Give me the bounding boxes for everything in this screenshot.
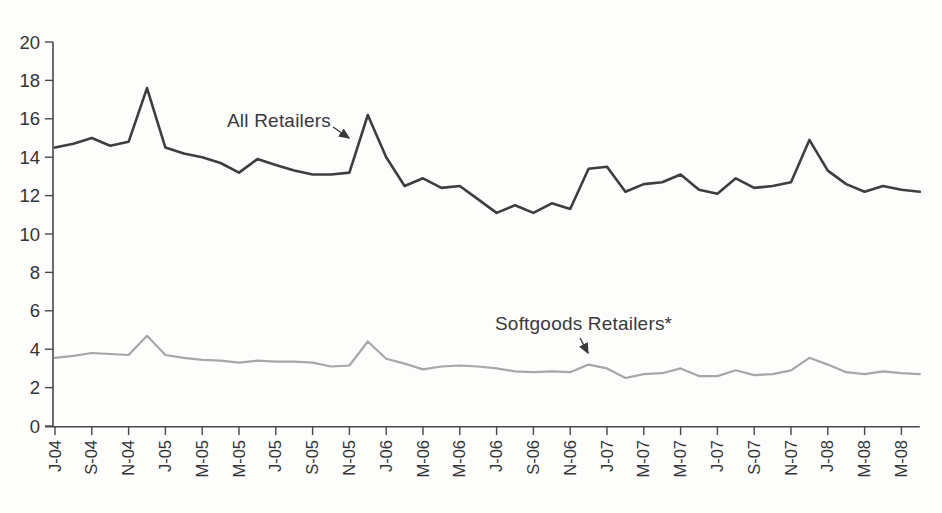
x-tick-label: M-06 bbox=[414, 440, 432, 478]
all-retailers-arrow bbox=[333, 127, 349, 138]
x-tick-label: M-07 bbox=[634, 440, 652, 478]
y-tick-label: 4 bbox=[30, 339, 40, 360]
x-tick-label: S-04 bbox=[82, 440, 100, 475]
y-tick-label: 14 bbox=[19, 147, 40, 168]
x-tick-label: N-05 bbox=[340, 440, 358, 476]
x-tick-label: N-07 bbox=[782, 440, 800, 476]
softgoods-retailers-line bbox=[55, 336, 920, 378]
x-tick-label: S-05 bbox=[303, 440, 321, 475]
x-tick-label: S-07 bbox=[745, 440, 763, 475]
x-tick-label: J-08 bbox=[818, 440, 836, 472]
y-tick-label: 16 bbox=[19, 108, 40, 129]
y-tick-label: 20 bbox=[19, 32, 40, 53]
annotation-softgoods-retailers-label: Softgoods Retailers* bbox=[495, 313, 672, 335]
y-tick-label: 10 bbox=[19, 224, 40, 245]
x-tick-label: J-04 bbox=[46, 440, 64, 472]
softgoods-retailers-arrow bbox=[580, 338, 588, 353]
x-tick-label: M-07 bbox=[671, 440, 689, 478]
x-tick-label: J-05 bbox=[266, 440, 284, 472]
x-tick-label: J-06 bbox=[377, 440, 395, 472]
x-tick-label: J-06 bbox=[487, 440, 505, 472]
y-tick-label: 8 bbox=[30, 262, 40, 283]
x-tick-label: J-05 bbox=[156, 440, 174, 472]
x-tick-label: N-04 bbox=[119, 440, 137, 476]
y-tick-label: 18 bbox=[19, 70, 40, 91]
x-tick-label: J-07 bbox=[708, 440, 726, 472]
x-tick-label: M-05 bbox=[230, 440, 248, 478]
y-tick-label: 6 bbox=[30, 300, 40, 321]
x-tick-label: J-07 bbox=[598, 440, 616, 472]
all-retailers-line bbox=[55, 88, 920, 213]
annotation-all-retailers-label: All Retailers bbox=[227, 110, 331, 132]
x-tick-label: M-08 bbox=[892, 440, 910, 478]
x-tick-label: S-06 bbox=[524, 440, 542, 475]
retail-inventory-chart-page: 02468101214161820J-04S-04N-04J-05M-05M-0… bbox=[0, 0, 942, 513]
y-tick-label: 0 bbox=[30, 416, 40, 437]
y-tick-label: 2 bbox=[30, 377, 40, 398]
x-tick-label: N-06 bbox=[561, 440, 579, 476]
x-tick-label: M-08 bbox=[855, 440, 873, 478]
x-tick-label: M-05 bbox=[193, 440, 211, 478]
x-tick-label: M-06 bbox=[450, 440, 468, 478]
retail-inventory-line-chart: 02468101214161820J-04S-04N-04J-05M-05M-0… bbox=[0, 0, 942, 513]
y-tick-label: 12 bbox=[19, 185, 40, 206]
